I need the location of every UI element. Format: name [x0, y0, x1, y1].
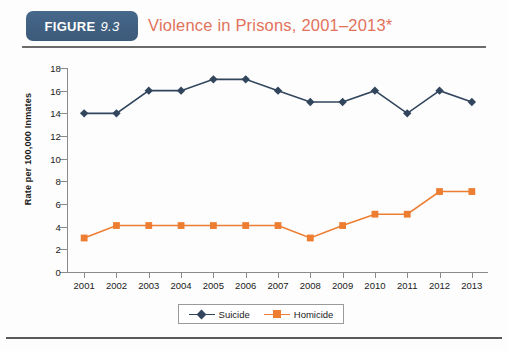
- data-point: [113, 222, 120, 229]
- legend-label: Suicide: [219, 309, 250, 320]
- diamond-marker-icon: [189, 309, 215, 319]
- figure-badge-number: 9.3: [100, 19, 119, 34]
- x-axis-tick: [407, 272, 408, 278]
- y-axis-title: Rate per 100,000 Inmates: [23, 59, 33, 239]
- x-axis-tick: [213, 272, 214, 278]
- data-point: [242, 222, 249, 229]
- data-point: [275, 222, 282, 229]
- chart-legend: SuicideHomicide: [178, 304, 344, 324]
- data-point: [436, 188, 443, 195]
- x-axis-label: 2004: [170, 280, 191, 291]
- data-point: [80, 109, 88, 117]
- legend-label: Homicide: [294, 309, 334, 320]
- data-point: [210, 222, 217, 229]
- x-axis-tick: [278, 272, 279, 278]
- data-point: [209, 75, 217, 83]
- x-axis-tick: [181, 272, 182, 278]
- header-divider: [22, 46, 486, 48]
- series-line: [84, 79, 472, 113]
- legend-item-homicide[interactable]: Homicide: [264, 309, 334, 320]
- data-point: [372, 211, 379, 218]
- x-axis-label: 2001: [74, 280, 95, 291]
- plot-area: 024681012141618 200120022003200420052006…: [67, 68, 488, 273]
- x-axis-tick: [149, 272, 150, 278]
- x-axis-tick: [440, 272, 441, 278]
- x-axis-tick: [343, 272, 344, 278]
- data-point: [404, 211, 411, 218]
- x-axis-label: 2006: [235, 280, 256, 291]
- x-axis-tick: [310, 272, 311, 278]
- x-axis-label: 2008: [300, 280, 321, 291]
- legend-item-suicide[interactable]: Suicide: [189, 309, 250, 320]
- data-point: [307, 235, 314, 242]
- square-marker-icon: [264, 309, 290, 319]
- series-plot: [68, 68, 488, 272]
- x-axis-label: 2009: [332, 280, 353, 291]
- y-axis-label: 2: [56, 244, 64, 255]
- data-point: [339, 222, 346, 229]
- chart-container: Rate per 100,000 Inmates 024681012141618…: [0, 52, 508, 312]
- figure-badge: FIGURE 9.3: [26, 11, 138, 41]
- y-axis-label: 18: [50, 63, 64, 74]
- x-axis-label: 2005: [203, 280, 224, 291]
- x-axis-label: 2002: [106, 280, 127, 291]
- y-axis-label: 8: [56, 176, 64, 187]
- x-axis-label: 2007: [267, 280, 288, 291]
- page-title: Violence in Prisons, 2001–2013*: [148, 16, 392, 35]
- x-axis-tick: [472, 272, 473, 278]
- x-axis-tick: [375, 272, 376, 278]
- y-axis-label: 16: [50, 85, 64, 96]
- data-point: [177, 86, 185, 94]
- y-axis-label: 10: [50, 153, 64, 164]
- data-point: [178, 222, 185, 229]
- data-point: [241, 75, 249, 83]
- series-suicide: [80, 75, 476, 117]
- figure-badge-word: FIGURE: [45, 19, 96, 34]
- y-axis-label: 4: [56, 221, 64, 232]
- data-point: [468, 98, 476, 106]
- series-homicide: [81, 188, 475, 241]
- data-point: [81, 235, 88, 242]
- x-axis-label: 2010: [364, 280, 385, 291]
- data-point: [468, 188, 475, 195]
- data-point: [338, 98, 346, 106]
- y-axis-label: 14: [50, 108, 64, 119]
- data-point: [306, 98, 314, 106]
- x-axis-label: 2011: [397, 280, 417, 291]
- x-axis-tick: [116, 272, 117, 278]
- x-axis-label: 2013: [461, 280, 482, 291]
- y-axis-label: 12: [50, 131, 64, 142]
- figure-header: FIGURE 9.3 Violence in Prisons, 2001–201…: [0, 0, 508, 52]
- x-axis-tick: [246, 272, 247, 278]
- data-point: [145, 222, 152, 229]
- y-axis-label: 6: [56, 199, 64, 210]
- footer-divider: [6, 337, 502, 339]
- series-line: [84, 192, 472, 238]
- x-axis-label: 2003: [138, 280, 159, 291]
- data-point: [274, 86, 282, 94]
- x-axis-tick: [84, 272, 85, 278]
- y-axis-label: 0: [56, 267, 64, 278]
- x-axis-label: 2012: [429, 280, 450, 291]
